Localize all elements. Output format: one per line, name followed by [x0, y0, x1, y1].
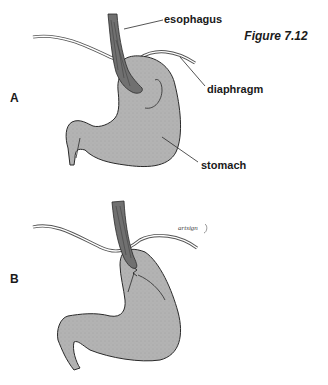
panel-b-label: B — [10, 272, 19, 286]
label-esophagus: esophagus — [164, 13, 222, 25]
panel-a-label: A — [10, 91, 19, 105]
panel-a: A esophagus diaphragm stomach — [10, 13, 263, 171]
diaphragm-b — [33, 226, 197, 251]
label-stomach: stomach — [201, 159, 247, 171]
stomach-b — [57, 249, 180, 370]
leader-esophagus — [124, 20, 163, 29]
figure-title: Figure 7.12 — [244, 29, 308, 43]
artist-signature: artsign — [178, 224, 198, 232]
panel-b: B artsign — [10, 201, 207, 370]
esophagus-b — [112, 201, 137, 268]
label-diaphragm: diaphragm — [207, 83, 263, 95]
figure-canvas: Figure 7.12 A esophagus diaphragm stomac… — [0, 0, 328, 385]
signature-flourish — [204, 224, 207, 233]
